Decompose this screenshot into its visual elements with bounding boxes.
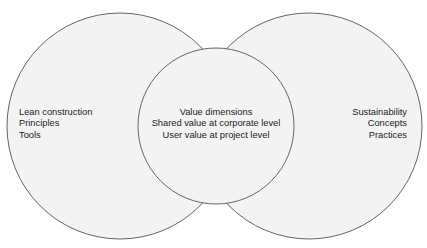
label-shared-value: Shared value at corporate level: [150, 118, 282, 129]
label-practices: Practices: [352, 130, 407, 141]
label-value-dimensions: Value dimensions: [150, 107, 282, 118]
left-circle-labels: Lean construction Principles Tools: [19, 107, 92, 141]
label-user-value: User value at project level: [150, 130, 282, 141]
label-concepts: Concepts: [352, 118, 407, 129]
middle-circle-labels: Value dimensions Shared value at corpora…: [150, 107, 282, 141]
label-lean-construction: Lean construction: [19, 107, 92, 118]
label-tools: Tools: [19, 130, 92, 141]
label-principles: Principles: [19, 118, 92, 129]
label-sustainability: Sustainability: [352, 107, 407, 118]
right-circle-labels: Sustainability Concepts Practices: [352, 107, 407, 141]
